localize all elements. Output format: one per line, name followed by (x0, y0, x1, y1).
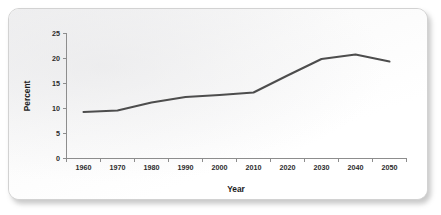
x-axis: 1960197019801990200020102020203020402050 (67, 159, 407, 172)
y-tick-label: 5 (56, 129, 60, 138)
y-tick-label: 25 (52, 29, 60, 38)
chart-card: 0510152025 19601970198019902000201020202… (8, 8, 428, 200)
y-tick-label: 10 (52, 104, 60, 113)
figure-root: 0510152025 19601970198019902000201020202… (0, 0, 441, 215)
x-tick-group: 1960197019801990200020102020203020402050 (67, 159, 407, 172)
x-tick-label: 2030 (314, 163, 330, 172)
x-tick-label: 2050 (382, 163, 398, 172)
y-tick-group: 0510152025 (52, 29, 67, 163)
x-axis-title: Year (227, 184, 245, 194)
x-tick-label: 1970 (110, 163, 126, 172)
y-tick-label: 0 (56, 154, 60, 163)
x-tick-label: 2010 (246, 163, 262, 172)
x-tick-label: 2040 (348, 163, 364, 172)
x-tick-label: 1990 (178, 163, 194, 172)
x-tick-label: 2020 (280, 163, 296, 172)
x-tick-label: 1960 (76, 163, 92, 172)
x-tick-label: 2000 (212, 163, 228, 172)
line-chart: 0510152025 19601970198019902000201020202… (9, 9, 427, 199)
y-axis: 0510152025 (52, 29, 67, 163)
x-tick-label: 1980 (144, 163, 160, 172)
y-tick-label: 15 (52, 79, 60, 88)
data-series-line (84, 55, 390, 113)
y-axis-title: Percent (22, 80, 32, 111)
y-tick-label: 20 (52, 54, 60, 63)
